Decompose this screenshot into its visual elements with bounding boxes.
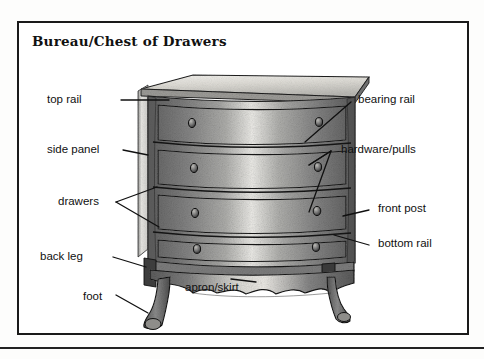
bureau-illustration (17, 21, 469, 335)
figure-page: Bureau/Chest of Drawers (0, 0, 484, 359)
label-top-rail: top rail (47, 94, 82, 106)
label-side-panel: side panel (47, 144, 99, 156)
foot-leader (116, 295, 148, 313)
label-bearing-rail: bearing rail (358, 94, 415, 106)
label-apron-skirt: apron/skirt (185, 282, 239, 294)
front-post-left (148, 96, 156, 262)
chest-body (138, 75, 369, 330)
page-bottom-rule (0, 347, 484, 349)
pull-right-3 (313, 206, 321, 215)
pull-right-2 (314, 163, 321, 172)
label-hardware-pulls: hardware/pulls (341, 144, 416, 156)
pull-left-4 (193, 245, 200, 254)
side-panel-part (138, 85, 148, 257)
pull-right-4 (312, 243, 319, 252)
pull-left-2 (190, 163, 197, 172)
label-foot: foot (83, 291, 102, 303)
pull-left-3 (191, 208, 198, 217)
label-bottom-rail: bottom rail (378, 238, 432, 250)
pull-left-1 (188, 118, 195, 127)
label-back-leg: back leg (40, 251, 83, 263)
label-drawers: drawers (58, 196, 99, 208)
pull-right-1 (315, 118, 322, 127)
back-leg-leader (113, 257, 146, 267)
label-front-post: front post (378, 203, 426, 215)
